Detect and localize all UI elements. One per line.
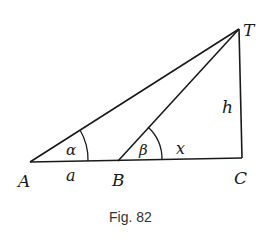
triangle-diagram: α β a x h A B C T Fig. 82: [0, 0, 274, 241]
segment-label-ab: a: [66, 166, 76, 185]
angle-label-beta: β: [138, 141, 148, 159]
baseline-ac: [30, 158, 242, 162]
angle-arc-beta: [148, 127, 162, 160]
figure-caption: Fig. 82: [109, 209, 152, 225]
angle-label-alpha: α: [66, 141, 76, 159]
point-label-c: C: [234, 168, 247, 188]
angle-arc-alpha: [80, 130, 88, 161]
point-label-b: B: [111, 170, 125, 190]
line-tc: [239, 29, 242, 158]
segment-label-bc: x: [176, 139, 185, 158]
point-label-a: A: [16, 171, 30, 191]
segment-label-ct: h: [222, 97, 233, 117]
point-label-t: T: [243, 20, 256, 40]
